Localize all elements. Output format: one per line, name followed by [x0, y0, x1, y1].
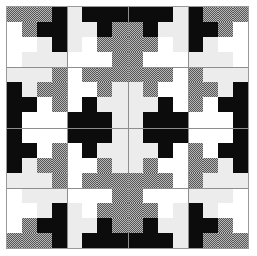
quilt-cell-dotted-gray: [218, 22, 233, 37]
quilt-cell-dotted-gray: [52, 143, 67, 158]
quilt-cell-white: [67, 67, 82, 82]
quilt-cell-dotted-gray: [22, 7, 37, 22]
quilt-cell-light-gray: [97, 143, 112, 158]
quilt-cell-dotted-gray: [52, 82, 67, 97]
quilt-cell-light-gray: [203, 67, 218, 82]
quilt-cell-light-gray: [37, 52, 52, 67]
quilt-cell-white: [188, 112, 203, 127]
quilt-cell-white: [82, 203, 97, 218]
quilt-cell-dotted-gray: [218, 233, 233, 248]
quilt-cell-black: [188, 203, 203, 218]
quilt-cell-light-gray: [233, 173, 248, 188]
quilt-cell-black: [97, 112, 112, 127]
quilt-cell-light-gray: [67, 203, 82, 218]
quilt-cell-light-gray: [22, 173, 37, 188]
quilt-cell-dotted-gray: [22, 233, 37, 248]
quilt-cell-white: [82, 188, 97, 203]
quilt-cell-white: [158, 158, 173, 173]
quilt-cell-black: [52, 218, 67, 233]
quilt-cell-black: [22, 143, 37, 158]
quilt-cell-white: [233, 188, 248, 203]
quilt-cell-black: [158, 97, 173, 112]
quilt-cell-light-gray: [22, 82, 37, 97]
quilt-cell-dotted-gray: [128, 203, 143, 218]
quilt-cell-black: [7, 128, 22, 143]
quilt-cell-light-gray: [128, 143, 143, 158]
quilt-cell-white: [7, 188, 22, 203]
quilt-cell-dotted-gray: [52, 158, 67, 173]
quilt-cell-dotted-gray: [218, 7, 233, 22]
quilt-cell-black: [158, 7, 173, 22]
quilt-cell-light-gray: [218, 82, 233, 97]
quilt-cell-dotted-gray: [128, 218, 143, 233]
quilt-cell-dotted-gray: [143, 173, 158, 188]
quilt-cell-black: [97, 218, 112, 233]
quilt-cell-dotted-gray: [82, 173, 97, 188]
quilt-cell-light-gray: [22, 52, 37, 67]
quilt-cell-white: [7, 203, 22, 218]
quilt-cell-light-gray: [67, 37, 82, 52]
quilt-cell-dotted-gray: [203, 233, 218, 248]
quilt-cell-white: [233, 22, 248, 37]
quilt-cell-white: [82, 158, 97, 173]
quilt-cell-black: [158, 233, 173, 248]
quilt-cell-light-gray: [203, 203, 218, 218]
quilt-cell-white: [22, 37, 37, 52]
quilt-cell-light-gray: [22, 67, 37, 82]
quilt-cell-white: [218, 112, 233, 127]
quilt-cell-light-gray: [173, 37, 188, 52]
quilt-cell-dotted-gray: [203, 7, 218, 22]
quilt-cell-dotted-gray: [158, 67, 173, 82]
quilt-cell-white: [22, 128, 37, 143]
quilt-cell-black: [112, 7, 127, 22]
quilt-cell-dotted-gray: [97, 37, 112, 52]
quilt-cell-black: [37, 22, 52, 37]
quilt-cell-light-gray: [97, 97, 112, 112]
quilt-cell-white: [158, 52, 173, 67]
quilt-cell-light-gray: [37, 188, 52, 203]
quilt-cell-black: [82, 97, 97, 112]
quilt-cell-light-gray: [82, 22, 97, 37]
quilt-cell-white: [67, 173, 82, 188]
quilt-cell-black: [203, 22, 218, 37]
quilt-cell-dotted-gray: [233, 233, 248, 248]
quilt-cell-black: [82, 128, 97, 143]
quilt-cell-dotted-gray: [143, 37, 158, 52]
quilt-cell-light-gray: [188, 188, 203, 203]
quilt-cell-black: [233, 158, 248, 173]
quilt-cell-white: [173, 188, 188, 203]
quilt-cell-light-gray: [158, 218, 173, 233]
quilt-cell-white: [52, 112, 67, 127]
quilt-cell-light-gray: [218, 173, 233, 188]
quilt-cell-black: [203, 218, 218, 233]
quilt-cell-dotted-gray: [128, 37, 143, 52]
quilt-cell-white: [82, 52, 97, 67]
quilt-cell-white: [67, 188, 82, 203]
quilt-cell-black: [82, 7, 97, 22]
quilt-cell-dotted-gray: [128, 52, 143, 67]
quilt-cell-light-gray: [82, 218, 97, 233]
quilt-cell-white: [233, 218, 248, 233]
quilt-cell-light-gray: [218, 67, 233, 82]
quilt-cell-black: [173, 112, 188, 127]
quilt-cell-black: [218, 143, 233, 158]
quilt-cell-light-gray: [173, 22, 188, 37]
quilt-cell-white: [173, 82, 188, 97]
quilt-cell-black: [143, 22, 158, 37]
quilt-cell-white: [158, 37, 173, 52]
quilt-cell-dotted-gray: [97, 158, 112, 173]
quilt-cell-white: [7, 22, 22, 37]
quilt-cell-dotted-gray: [143, 67, 158, 82]
quilt-cell-black: [82, 233, 97, 248]
quilt-cell-dotted-gray: [7, 7, 22, 22]
quilt-cell-light-gray: [67, 218, 82, 233]
quilt-cell-light-gray: [112, 158, 127, 173]
quilt-cell-dotted-gray: [37, 7, 52, 22]
quilt-cell-white: [7, 52, 22, 67]
quilt-cell-white: [203, 112, 218, 127]
quilt-cell-black: [233, 143, 248, 158]
quilt-cell-black: [67, 112, 82, 127]
quilt-cell-dotted-gray: [233, 7, 248, 22]
quilt-cell-light-gray: [143, 97, 158, 112]
quilt-cell-dotted-gray: [188, 173, 203, 188]
